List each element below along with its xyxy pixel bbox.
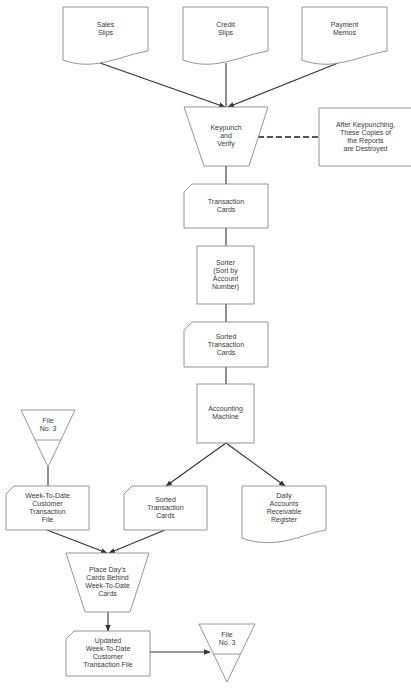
label-sorted-cards-2: Sorted Transaction Cards — [124, 492, 207, 524]
edge-sales-to-keypunch — [100, 63, 225, 107]
edge-accounting-to-sorted-cards-2 — [166, 443, 226, 486]
label-sorted-cards-1: Sorted Transaction Cards — [184, 330, 268, 360]
label-transaction-cards: Transaction Cards — [184, 194, 268, 218]
label-note: After Keypunching, These Copies of the R… — [320, 112, 411, 162]
label-accounting-machine: Accounting Machine — [197, 402, 254, 424]
label-file-out: File No. 3 — [207, 628, 247, 650]
label-daily-register: Daily Accounts Receivable Register — [242, 488, 326, 528]
label-sorter: Sorter (Sort by Account Number) — [197, 252, 254, 298]
label-keypunch: Keypunch and Verify — [190, 118, 262, 154]
label-sales-slips: Sales Slips — [63, 18, 148, 40]
edge-payment-to-keypunch — [228, 63, 338, 107]
edge-accounting-to-register — [226, 443, 285, 486]
label-week-file: Week-To-Date Customer Transaction File — [6, 488, 89, 528]
label-place-cards: Place Day's Cards Behind Week-To-Date Ca… — [70, 563, 145, 601]
edge-week-file-to-place-cards — [47, 530, 107, 553]
edge-sorted-cards-2-to-place-cards — [109, 530, 165, 553]
label-updated-file: Updated Week-To-Date Customer Transactio… — [66, 633, 150, 673]
label-file-in: File No. 3 — [28, 414, 68, 436]
label-payment-memos: Payment Memos — [302, 18, 387, 40]
label-credit-slips: Credit Slips — [183, 18, 268, 40]
